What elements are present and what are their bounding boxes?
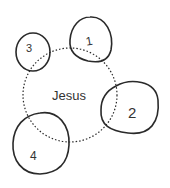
diagram-canvas: Jesus 1 2 3 4 xyxy=(0,0,170,188)
node-label-1: 1 xyxy=(85,34,94,49)
node-label-4: 4 xyxy=(30,149,37,163)
circle-4 xyxy=(13,113,69,174)
venn-diagram: Jesus 1 2 3 4 xyxy=(0,0,170,188)
node-label-3: 3 xyxy=(26,42,32,54)
node-label-2: 2 xyxy=(128,104,136,121)
center-label: Jesus xyxy=(52,88,86,103)
